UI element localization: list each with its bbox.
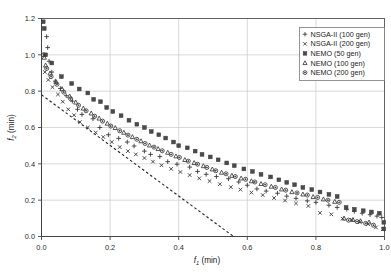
data-point-circle bbox=[136, 139, 137, 140]
data-point-square bbox=[200, 153, 204, 157]
data-point-square bbox=[77, 87, 81, 91]
chart-legend[interactable]: NSGA-II (100 gen)NSGA-II (200 gen)NEMO (… bbox=[300, 28, 385, 81]
data-point-square bbox=[164, 136, 168, 140]
data-point-circle bbox=[297, 192, 298, 193]
data-point-circle bbox=[245, 179, 246, 180]
data-point-square bbox=[277, 178, 281, 182]
data-point-circle bbox=[51, 76, 52, 77]
data-point-square bbox=[352, 207, 356, 211]
y-tick-label: 0.0 bbox=[25, 232, 35, 241]
y-tick-label: 0.4 bbox=[25, 160, 35, 169]
legend-marker-circle bbox=[305, 72, 306, 73]
data-point-circle bbox=[46, 68, 47, 69]
data-point-circle bbox=[63, 92, 64, 93]
data-point-circle bbox=[254, 181, 255, 182]
data-point-square bbox=[285, 180, 289, 184]
x-tick-label: 0.2 bbox=[105, 243, 115, 252]
data-point-square bbox=[251, 170, 255, 174]
data-point-circle bbox=[188, 161, 189, 162]
legend-label: NSGA-II (100 gen) bbox=[311, 30, 371, 39]
data-point-square bbox=[92, 97, 96, 101]
data-point-circle bbox=[317, 197, 318, 198]
legend-item-2[interactable]: NEMO (50 gen) bbox=[303, 49, 361, 58]
data-point-square bbox=[50, 61, 54, 65]
data-point-circle bbox=[327, 200, 328, 201]
data-point-square bbox=[193, 149, 197, 153]
data-point-square bbox=[225, 161, 229, 165]
data-point-square bbox=[259, 172, 263, 176]
legend-label: NEMO (100 gen) bbox=[311, 59, 365, 68]
x-tick-label: 0.0 bbox=[36, 243, 46, 252]
data-point-circle bbox=[86, 110, 87, 111]
data-point-square bbox=[172, 140, 176, 144]
data-point-circle bbox=[94, 116, 95, 117]
legend-item-1[interactable]: NSGA-II (200 gen) bbox=[303, 39, 370, 48]
y-tick-label: 1.2 bbox=[25, 14, 35, 23]
data-point-circle bbox=[226, 173, 227, 174]
data-point-circle bbox=[339, 202, 340, 203]
data-point-circle bbox=[110, 126, 111, 127]
data-point-circle bbox=[102, 121, 103, 122]
data-point-square bbox=[70, 82, 74, 86]
data-point-square bbox=[216, 158, 220, 162]
data-point-square bbox=[177, 144, 181, 148]
data-point-square bbox=[127, 118, 131, 122]
data-point-circle bbox=[43, 54, 44, 55]
data-point-square bbox=[60, 75, 64, 79]
legend-item-4[interactable]: NEMO (200 gen) bbox=[303, 68, 365, 77]
data-point-square bbox=[41, 20, 45, 24]
data-point-circle bbox=[179, 157, 180, 158]
data-point-circle bbox=[275, 187, 276, 188]
x-tick-label: 0.4 bbox=[174, 243, 184, 252]
data-point-square bbox=[335, 195, 339, 199]
x-tick-label: 0.6 bbox=[242, 243, 252, 252]
legend-label: NEMO (200 gen) bbox=[311, 68, 365, 77]
data-point-square bbox=[301, 186, 305, 190]
data-point-circle bbox=[357, 221, 358, 222]
data-point-square bbox=[208, 155, 212, 159]
data-point-circle bbox=[70, 98, 71, 99]
data-point-circle bbox=[206, 167, 207, 168]
data-point-circle bbox=[265, 184, 266, 185]
y-tick-label: 0.6 bbox=[25, 123, 35, 132]
data-point-square bbox=[242, 167, 246, 171]
scatter-chart-figure: 0.00.20.40.60.81.0 0.00.20.40.60.81.01.2… bbox=[0, 0, 391, 273]
data-point-square bbox=[119, 114, 123, 118]
data-point-circle bbox=[78, 105, 79, 106]
x-tick-label: 0.8 bbox=[311, 243, 321, 252]
data-point-square bbox=[42, 27, 46, 31]
data-point-circle bbox=[365, 223, 366, 224]
data-point-square bbox=[149, 130, 153, 134]
data-point-circle bbox=[162, 150, 163, 151]
data-point-square bbox=[377, 211, 381, 215]
data-point-square bbox=[143, 126, 147, 130]
data-point-square bbox=[269, 175, 273, 179]
data-point-circle bbox=[127, 135, 128, 136]
data-point-square bbox=[135, 122, 139, 126]
chart-canvas: 0.00.20.40.60.81.0 0.00.20.40.60.81.01.2… bbox=[0, 0, 391, 273]
data-point-circle bbox=[285, 190, 286, 191]
legend-item-3[interactable]: NEMO (100 gen) bbox=[303, 59, 365, 68]
x-tick-label: 1.0 bbox=[379, 243, 389, 252]
data-point-circle bbox=[348, 220, 349, 221]
legend-label: NSGA-II (200 gen) bbox=[311, 39, 371, 48]
data-point-square bbox=[310, 188, 314, 192]
data-point-circle bbox=[197, 164, 198, 165]
data-point-square bbox=[327, 192, 331, 196]
data-point-square bbox=[157, 133, 161, 137]
data-point-square bbox=[105, 106, 109, 110]
data-point-circle bbox=[373, 225, 374, 226]
legend-marker-square bbox=[303, 52, 307, 56]
data-point-square bbox=[370, 210, 374, 214]
legend-label: NEMO (50 gen) bbox=[311, 49, 361, 58]
data-point-square bbox=[344, 206, 348, 210]
data-point-circle bbox=[171, 154, 172, 155]
data-point-square bbox=[86, 91, 90, 95]
data-point-square bbox=[361, 209, 365, 213]
data-point-square bbox=[185, 146, 189, 150]
data-point-square bbox=[382, 227, 386, 231]
data-point-circle bbox=[56, 84, 57, 85]
legend-item-0[interactable]: NSGA-II (100 gen) bbox=[303, 30, 370, 39]
y-tick-label: 1.0 bbox=[25, 51, 35, 60]
data-point-square bbox=[232, 164, 236, 168]
